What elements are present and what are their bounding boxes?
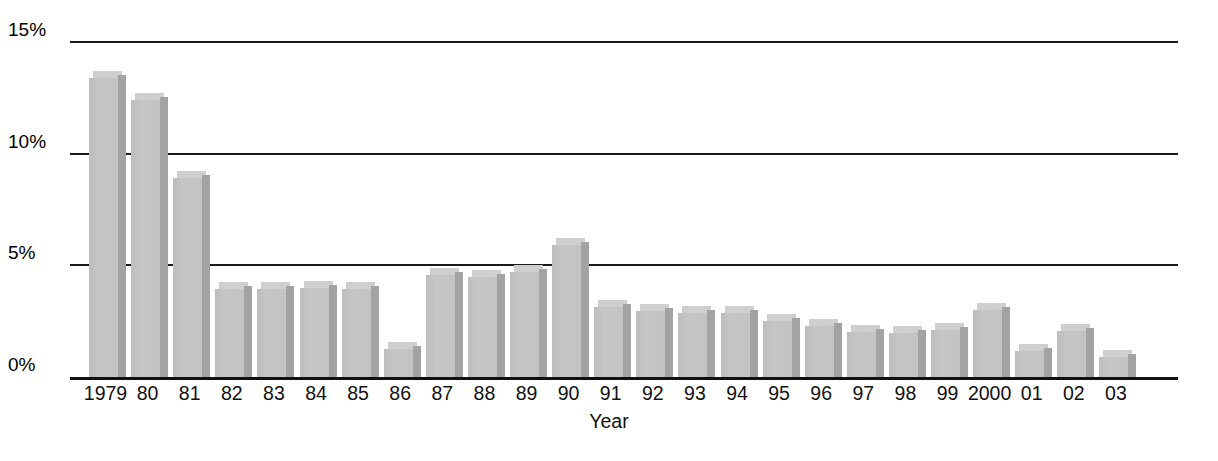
plot-area: 0%5%10%15% (70, 20, 1178, 377)
bar-front-face (847, 332, 876, 377)
bar (889, 326, 926, 377)
bar (678, 306, 715, 377)
bar-front-face (257, 289, 286, 377)
bar (468, 270, 505, 378)
x-axis-title: Year (0, 410, 1218, 433)
bar-front-face (173, 178, 202, 377)
bar (300, 281, 337, 377)
bar (636, 304, 673, 377)
bar-front-face (1099, 357, 1128, 377)
bar (173, 171, 210, 377)
bar-side-face (202, 175, 210, 377)
bar-side-face (1002, 307, 1010, 377)
bar-side-face (623, 304, 631, 377)
bar (1057, 324, 1094, 377)
bar-front-face (510, 272, 539, 377)
bar-front-face (131, 100, 160, 377)
bar-side-face (834, 323, 842, 377)
bar-front-face (426, 275, 455, 377)
bar-side-face (876, 329, 884, 377)
bar (931, 323, 968, 377)
bar-series (70, 20, 1178, 377)
bar-front-face (805, 326, 834, 377)
x-axis-tick-label: 03 (1076, 382, 1156, 405)
bar-side-face (1086, 328, 1094, 377)
bar (257, 282, 294, 377)
bar-side-face (1044, 348, 1052, 377)
bar-front-face (342, 289, 371, 377)
bar (384, 342, 421, 377)
bar (973, 303, 1010, 377)
bar-front-face (973, 310, 1002, 377)
bar (426, 268, 463, 377)
bar-front-face (1015, 351, 1044, 377)
bar-front-face (468, 277, 497, 378)
y-axis-tick-label: 0% (8, 354, 64, 376)
bar-side-face (581, 242, 589, 377)
bar-front-face (678, 313, 707, 377)
y-axis-tick-label: 5% (8, 242, 64, 264)
bar-side-face (707, 310, 715, 377)
bar-front-face (721, 313, 750, 377)
bar (215, 282, 252, 377)
bar-side-face (750, 310, 758, 377)
bar (1015, 344, 1052, 377)
bar-front-face (931, 330, 960, 377)
bar-front-face (763, 321, 792, 377)
bar-chart: 0%5%10%15% Year 197980818283848586878889… (0, 0, 1218, 461)
bar (763, 314, 800, 377)
bar-side-face (1128, 354, 1136, 377)
bar-side-face (244, 286, 252, 377)
bar-front-face (552, 245, 581, 377)
y-axis-tick-label: 10% (8, 131, 64, 153)
bar-side-face (792, 318, 800, 377)
bar-side-face (413, 346, 421, 377)
bar-front-face (889, 333, 918, 377)
bar-side-face (665, 308, 673, 377)
y-axis-tick-label: 15% (8, 19, 64, 41)
bar (594, 300, 631, 377)
bar-front-face (215, 289, 244, 377)
bar-front-face (594, 307, 623, 377)
bar-side-face (960, 327, 968, 377)
bar (721, 306, 758, 377)
bar (131, 93, 168, 377)
bar-side-face (539, 269, 547, 377)
bar-front-face (300, 288, 329, 377)
bar-side-face (918, 330, 926, 377)
bar-side-face (160, 97, 168, 377)
bar (342, 282, 379, 377)
axis-baseline (70, 377, 1178, 380)
bar-side-face (497, 274, 505, 378)
bar-side-face (329, 285, 337, 377)
bar-front-face (89, 78, 118, 377)
bar-front-face (636, 311, 665, 377)
bar (89, 71, 126, 377)
bar-side-face (118, 75, 126, 377)
bar (552, 238, 589, 377)
bar-side-face (371, 286, 379, 377)
bar-side-face (286, 286, 294, 377)
bar (805, 319, 842, 377)
bar-front-face (1057, 331, 1086, 377)
bar-front-face (384, 349, 413, 377)
bar-side-face (455, 272, 463, 377)
bar (510, 265, 547, 377)
bar (847, 325, 884, 377)
bar (1099, 350, 1136, 377)
